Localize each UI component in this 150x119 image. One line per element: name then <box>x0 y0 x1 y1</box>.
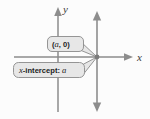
x-axis-arrowhead-icon <box>124 53 133 61</box>
intercept-callout-label: x-intercept: a <box>18 65 66 75</box>
y-axis <box>54 7 62 112</box>
intercept-callout[interactable]: x-intercept: a <box>14 63 85 78</box>
point-callout-label: (a, 0) <box>52 39 70 49</box>
x-axis <box>14 53 133 61</box>
x-axis-label: x <box>136 51 142 63</box>
vline-top-arrowhead-icon <box>93 11 101 21</box>
y-axis-arrowhead-icon <box>54 7 62 16</box>
coordinate-plane-diagram: (a, 0) x-intercept: a y x <box>0 0 150 119</box>
x-intercept-point-marker <box>95 55 100 60</box>
math-figure-vertical-line-intercept: (a, 0) x-intercept: a y x <box>0 0 150 119</box>
vline-bottom-arrowhead-icon <box>93 103 101 113</box>
y-axis-label: y <box>62 3 68 15</box>
vertical-line-x-equals-a <box>93 11 101 112</box>
point-callout[interactable]: (a, 0) <box>48 37 84 52</box>
